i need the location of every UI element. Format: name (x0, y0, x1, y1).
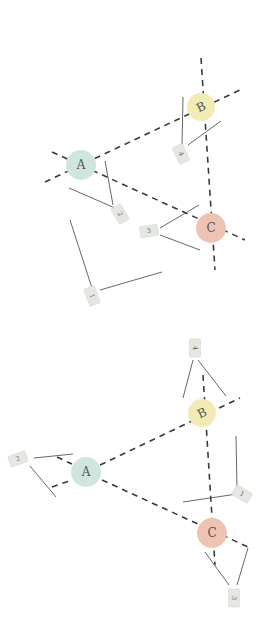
edge-a-left-upper (57, 457, 72, 464)
edge-a-left-lower (52, 480, 72, 487)
tag-label: 4 (191, 346, 199, 350)
node-c-bottom[interactable]: C (197, 518, 227, 548)
leader-tag1-b (183, 494, 237, 502)
tag-4-bottom[interactable]: 4 (190, 339, 201, 357)
bottom-diagram: A B C 4 2 1 3 (8, 339, 253, 607)
leader-tag3-b (160, 235, 200, 250)
diagram-canvas: A B C 1 2 3 4 (0, 0, 257, 630)
tag-1-bottom[interactable]: 1 (231, 485, 252, 504)
node-label: A (81, 465, 91, 479)
leader-tag1-b (100, 272, 162, 290)
tag-label: 3 (230, 596, 238, 600)
tag-1-top[interactable]: 1 (84, 286, 100, 307)
node-b-bottom[interactable]: B (188, 399, 216, 427)
leader-tag1-a (236, 436, 237, 489)
node-a-top[interactable]: A (66, 150, 96, 180)
node-a-bottom[interactable]: A (71, 457, 101, 487)
node-b-top[interactable]: B (187, 93, 215, 121)
tag-3-bottom[interactable]: 3 (229, 589, 240, 607)
tag-3-top[interactable]: 3 (139, 224, 159, 238)
tag-2-top[interactable]: 2 (111, 203, 130, 224)
leader-tag4-b (198, 360, 226, 396)
leader-tag2-b (105, 161, 113, 205)
leader-tag2-a (34, 454, 73, 458)
node-c-top[interactable]: C (196, 213, 226, 243)
leader-tag2-a (69, 188, 115, 208)
leader-tag2-b (30, 466, 56, 497)
edge-a-b-bottom (100, 398, 240, 465)
top-diagram: A B C 1 2 3 4 (45, 58, 245, 306)
tag-4-top[interactable]: 4 (172, 144, 190, 165)
node-label: A (76, 158, 86, 172)
leader-tag1-a (70, 220, 92, 288)
leader-tag4-a (182, 97, 183, 145)
node-label: C (206, 221, 215, 235)
leader-tag3-a (205, 552, 229, 585)
leader-tag4-b (188, 121, 221, 145)
node-label: C (207, 526, 216, 540)
leader-tag3-b (237, 548, 248, 585)
leader-tag4-a (183, 360, 193, 398)
tag-2-bottom[interactable]: 2 (8, 451, 29, 467)
